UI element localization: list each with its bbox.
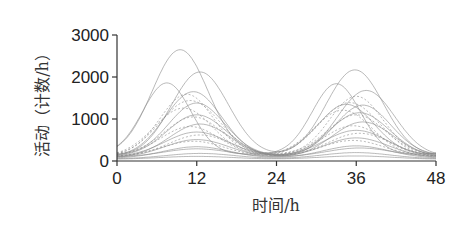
series-line-s3 bbox=[117, 83, 436, 154]
y-ticks: 0100020003000 bbox=[71, 26, 117, 171]
x-tick-label: 48 bbox=[427, 169, 446, 188]
y-tick-label: 3000 bbox=[71, 26, 109, 45]
axes: 0100020003000 012243648 bbox=[71, 26, 445, 188]
y-tick-label: 1000 bbox=[71, 110, 109, 129]
x-tick-label: 12 bbox=[187, 169, 206, 188]
y-axis-title: 活动（计数/h） bbox=[33, 45, 52, 157]
x-tick-label: 24 bbox=[267, 169, 286, 188]
series-curves bbox=[117, 50, 436, 159]
x-tick-label: 0 bbox=[112, 169, 121, 188]
series-line-s9 bbox=[117, 113, 436, 156]
x-tick-label: 36 bbox=[347, 169, 366, 188]
x-axis-title: 时间/h bbox=[252, 196, 300, 215]
series-line-s1 bbox=[117, 50, 436, 154]
y-tick-label: 2000 bbox=[71, 68, 109, 87]
activity-chart: 0100020003000 012243648 时间/h 活动（计数/h） bbox=[0, 0, 470, 229]
series-line-s16 bbox=[117, 140, 436, 156]
y-tick-label: 0 bbox=[100, 152, 109, 171]
x-ticks: 012243648 bbox=[112, 161, 445, 188]
